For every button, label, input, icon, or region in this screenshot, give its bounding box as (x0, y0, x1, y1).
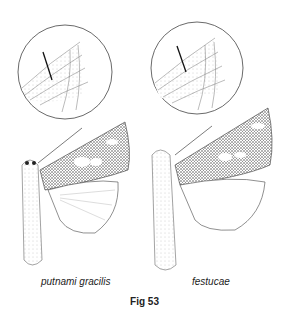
moth-putnami-gracilis (22, 122, 129, 265)
inset-circle-right (151, 22, 243, 114)
specimen-label-left: putnami gracilis (41, 276, 110, 287)
specimen-label-right: festucae (192, 276, 230, 287)
figure-caption: Fig 53 (0, 296, 289, 307)
inset-circle-left (18, 25, 112, 119)
moth-illustration (0, 0, 289, 317)
moth-festucae (152, 108, 272, 270)
